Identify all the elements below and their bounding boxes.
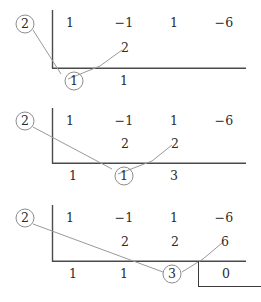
panel-2-divisor-circle: 2: [16, 112, 35, 131]
panel-1-result-value-1: 1: [66, 73, 83, 90]
panel-1-top-coefficient-1: 1: [66, 17, 74, 30]
panel-1-middle-product-1: 2: [121, 42, 129, 55]
panel-2-divisor-value: 2: [17, 113, 34, 130]
panel-2-middle-product-2: 2: [171, 138, 179, 151]
figure-line-artwork: [0, 0, 261, 302]
panel-3-top-coefficient-2: −1: [115, 212, 134, 225]
panel-3-result-value-1: 3: [164, 266, 181, 283]
panel-3-divisor-value: 2: [17, 210, 34, 227]
panel-3-bottom-value-1: 1: [69, 268, 77, 281]
panel-3-middle-product-2: 2: [171, 236, 179, 249]
panel-3-multiply-connector: [203, 243, 222, 259]
panel-1-multiply-connector: [100, 50, 122, 66]
panel-2-top-coefficient-2: −1: [115, 115, 134, 128]
panel-3-top-coefficient-1: 1: [66, 212, 74, 225]
panel-1-result-circle-1: 1: [65, 72, 84, 91]
synthetic-division-figure: 2 1 −1 1 −6 2 1 1 2 1 −1 1 −6 2 2 1 1 3 …: [0, 0, 261, 302]
panel-1-divisor-connector: [33, 30, 61, 74]
panel-3-result-circle-1: 3: [163, 265, 182, 284]
panel-3-divisor-connector: [33, 224, 163, 272]
panel-3-remainder-box: 0: [198, 261, 261, 287]
panel-3-top-coefficient-4: −6: [215, 212, 234, 225]
panel-2-result-value-1: 1: [116, 168, 133, 185]
panel-2-result-circle-1: 1: [115, 167, 134, 186]
panel-3-middle-product-1: 2: [121, 236, 129, 249]
panel-2-top-coefficient-1: 1: [66, 115, 74, 128]
panel-2-top-coefficient-4: −6: [215, 115, 234, 128]
panel-1-top-coefficient-2: −1: [115, 17, 134, 30]
panel-1-bottom-value-1: 1: [120, 75, 128, 88]
panel-2-middle-product-1: 2: [121, 138, 129, 151]
panel-3-remainder-value: 0: [222, 268, 230, 281]
panel-1-divisor-circle: 2: [16, 15, 35, 34]
panel-2-top-coefficient-3: 1: [170, 115, 178, 128]
panel-3-top-coefficient-3: 1: [170, 212, 178, 225]
panel-2-bottom-value-1: 1: [69, 170, 77, 183]
panel-3-divisor-circle: 2: [16, 209, 35, 228]
panel-2-multiply-connector: [152, 145, 172, 161]
panel-1-top-coefficient-3: 1: [170, 17, 178, 30]
panel-2-bottom-value-2: 3: [170, 170, 178, 183]
panel-2-divisor-connector: [33, 127, 112, 169]
panel-2-connectors: [33, 127, 172, 174]
panel-3-bottom-value-2: 1: [120, 268, 128, 281]
panel-1-top-coefficient-4: −6: [215, 17, 234, 30]
panel-1-divisor-value: 2: [17, 16, 34, 33]
panel-3-middle-product-3: 6: [221, 236, 229, 249]
